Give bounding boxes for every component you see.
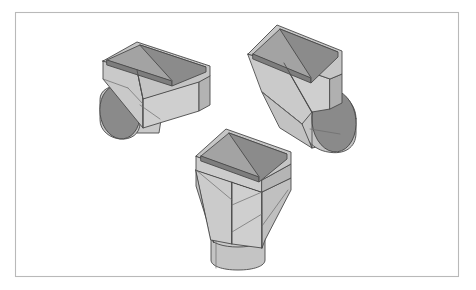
body-end-cap-top-right xyxy=(330,74,342,109)
duct-fittings-figure xyxy=(0,0,476,290)
cone-panel-front-bottom-center xyxy=(232,182,262,248)
illustration-canvas: Rectangular-to-round duct transition fit… xyxy=(0,0,476,290)
